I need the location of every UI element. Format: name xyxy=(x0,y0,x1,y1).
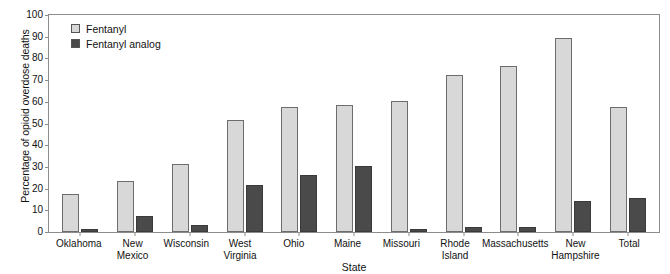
bar-fentanyl-analog xyxy=(300,175,317,232)
bar-group xyxy=(272,15,327,232)
bar-groups xyxy=(49,15,659,232)
plot-area: 1009080706050403020100 Fentanyl Fentanyl… xyxy=(48,14,660,233)
x-axis-tick-label: Rhode Island xyxy=(428,238,482,261)
x-axis-tick-labels: OklahomaNew MexicoWisconsinWest Virginia… xyxy=(48,238,660,261)
x-axis-tick-label: Oklahoma xyxy=(52,238,106,261)
bar-fentanyl-analog xyxy=(81,229,98,232)
bar-group xyxy=(327,15,382,232)
y-axis-tick-label: 40 xyxy=(32,139,49,151)
x-axis-tick-label: Wisconsin xyxy=(159,238,213,261)
bar-fentanyl xyxy=(172,164,189,232)
x-axis-tick-label: Total xyxy=(602,238,656,261)
bar-group xyxy=(53,15,108,232)
bar-group xyxy=(162,15,217,232)
x-axis-tick-label: Missouri xyxy=(374,238,428,261)
bar-fentanyl xyxy=(227,120,244,232)
x-axis-tick-mark xyxy=(80,232,81,236)
x-axis-tick-label: West Virginia xyxy=(213,238,267,261)
x-axis-tick-label: Maine xyxy=(321,238,375,261)
bar-fentanyl xyxy=(610,107,627,232)
y-axis-title: Percentage of opioid overdose deaths xyxy=(19,0,31,236)
bar-fentanyl-analog xyxy=(246,185,263,232)
x-axis-tick-mark xyxy=(463,232,464,236)
y-axis-tick-label: 100 xyxy=(26,9,49,21)
bar-fentanyl-analog xyxy=(191,225,208,233)
bar-fentanyl xyxy=(500,66,517,232)
bar-fentanyl xyxy=(446,75,463,232)
bar-fentanyl-analog xyxy=(465,227,482,232)
bar-fentanyl-analog xyxy=(410,229,427,232)
bar-fentanyl-analog xyxy=(519,227,536,232)
x-axis-tick-mark xyxy=(572,232,573,236)
bar-group xyxy=(546,15,601,232)
y-axis-tick-label: 0 xyxy=(37,226,49,238)
bar-group xyxy=(600,15,655,232)
y-axis-tick-label: 20 xyxy=(32,183,49,195)
x-axis-tick-mark xyxy=(354,232,355,236)
bar-group xyxy=(381,15,436,232)
y-axis-tick-label: 60 xyxy=(32,96,49,108)
bar-group xyxy=(217,15,272,232)
opioid-overdose-bar-chart: Percentage of opioid overdose deaths 100… xyxy=(0,0,670,274)
bar-fentanyl-analog xyxy=(629,198,646,232)
bar-fentanyl-analog xyxy=(355,166,372,232)
bar-group xyxy=(491,15,546,232)
x-axis-tick-mark xyxy=(408,232,409,236)
x-axis-tick-mark xyxy=(518,232,519,236)
bar-fentanyl xyxy=(62,194,79,232)
x-axis-title: State xyxy=(48,261,660,273)
y-axis-tick-label: 90 xyxy=(32,31,49,43)
y-axis-tick-label: 70 xyxy=(32,74,49,86)
x-axis-tick-mark xyxy=(299,232,300,236)
bar-group xyxy=(108,15,163,232)
x-axis-tick-mark xyxy=(244,232,245,236)
x-axis-tick-mark xyxy=(135,232,136,236)
bar-fentanyl xyxy=(555,38,572,232)
bar-fentanyl xyxy=(391,101,408,232)
x-axis-tick-label: Massachusetts xyxy=(482,238,549,261)
bar-fentanyl xyxy=(281,107,298,232)
bar-fentanyl xyxy=(336,105,353,232)
y-axis-tick-label: 30 xyxy=(32,161,49,173)
bar-fentanyl-analog xyxy=(574,201,591,232)
y-axis-tick-label: 50 xyxy=(32,118,49,130)
x-axis-tick-mark xyxy=(189,232,190,236)
x-axis-tick-mark xyxy=(627,232,628,236)
bar-fentanyl-analog xyxy=(136,216,153,232)
bar-fentanyl xyxy=(117,181,134,232)
bar-group xyxy=(436,15,491,232)
x-axis-tick-label: New Mexico xyxy=(106,238,160,261)
x-axis-tick-label: New Hampshire xyxy=(549,238,603,261)
y-axis-tick-label: 80 xyxy=(32,52,49,64)
y-axis-tick-label: 10 xyxy=(32,204,49,216)
x-axis-tick-label: Ohio xyxy=(267,238,321,261)
